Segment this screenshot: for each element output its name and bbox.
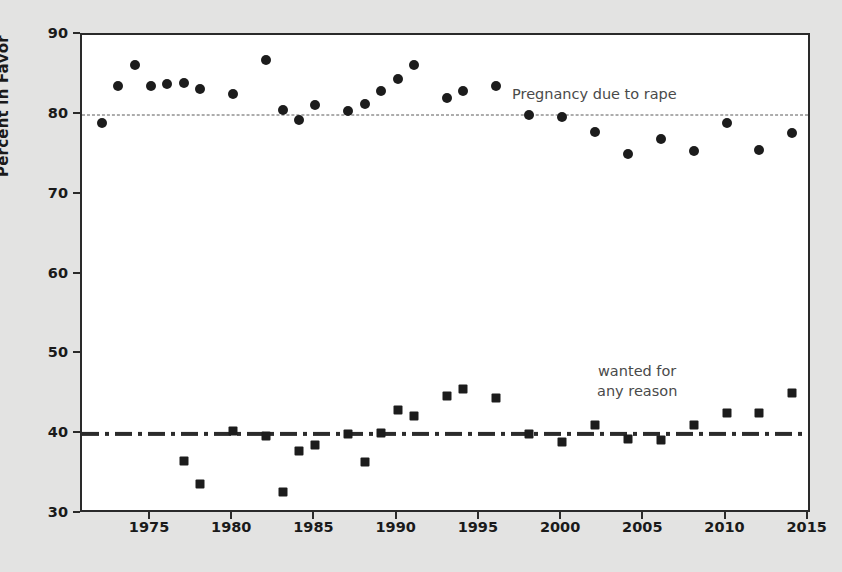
x-tick-mark [806, 512, 808, 519]
data-point [492, 394, 501, 403]
x-tick-mark [559, 512, 561, 519]
x-tick-label: 1995 [443, 519, 513, 535]
y-tick-label: 50 [32, 344, 68, 360]
y-tick-label: 70 [32, 185, 68, 201]
data-point [443, 391, 452, 400]
data-point [393, 406, 402, 415]
data-point [722, 408, 731, 417]
data-point [755, 409, 764, 418]
y-axis-title: Percent in Favor [0, 0, 12, 236]
data-point [459, 384, 468, 393]
x-tick-mark [477, 512, 479, 519]
x-tick-mark [724, 512, 726, 519]
x-tick-label: 2010 [690, 519, 760, 535]
data-point [656, 435, 665, 444]
x-tick-label: 1975 [114, 519, 184, 535]
y-tick-label: 30 [32, 504, 68, 520]
data-point [525, 430, 534, 439]
series-label-wanted-for-any-reason: wanted for any reason [597, 362, 677, 401]
data-point [623, 434, 632, 443]
x-tick-mark [641, 512, 643, 519]
y-tick-mark [73, 32, 80, 34]
x-tick-label: 1980 [196, 519, 266, 535]
data-point [344, 430, 353, 439]
data-point [410, 411, 419, 420]
chart-figure: Percent in Favor 30405060708090 19751980… [0, 0, 842, 572]
series-wanted-for-any-reason [82, 35, 808, 510]
plot-frame: Pregnancy due to rape wanted for any rea… [80, 33, 810, 512]
y-tick-label: 80 [32, 105, 68, 121]
data-point [262, 431, 271, 440]
data-point [590, 421, 599, 430]
y-tick-mark [73, 431, 80, 433]
x-tick-mark [395, 512, 397, 519]
x-tick-label: 1985 [278, 519, 348, 535]
y-tick-mark [73, 351, 80, 353]
y-tick-label: 40 [32, 424, 68, 440]
data-point [689, 421, 698, 430]
y-tick-mark [73, 192, 80, 194]
x-tick-label: 2005 [607, 519, 677, 535]
data-point [311, 441, 320, 450]
x-tick-label: 1990 [361, 519, 431, 535]
x-tick-mark [230, 512, 232, 519]
plot-area: Pregnancy due to rape wanted for any rea… [82, 35, 808, 510]
data-point [278, 488, 287, 497]
x-tick-label: 2000 [525, 519, 595, 535]
data-point [558, 438, 567, 447]
x-tick-mark [312, 512, 314, 519]
data-point [360, 458, 369, 467]
x-tick-mark [148, 512, 150, 519]
data-point [295, 446, 304, 455]
x-tick-label: 2015 [772, 519, 842, 535]
y-tick-mark [73, 272, 80, 274]
series-label-pregnancy-due-to-rape: Pregnancy due to rape [512, 85, 677, 105]
y-tick-label: 90 [32, 25, 68, 41]
data-point [377, 428, 386, 437]
y-tick-mark [73, 511, 80, 513]
y-tick-label: 60 [32, 265, 68, 281]
data-point [788, 389, 797, 398]
y-tick-mark [73, 112, 80, 114]
data-point [229, 426, 238, 435]
data-point [179, 457, 188, 466]
data-point [196, 480, 205, 489]
